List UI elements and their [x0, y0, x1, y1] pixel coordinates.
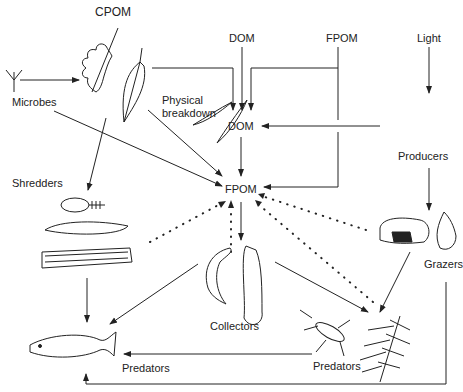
node-grazers: Grazers — [424, 258, 463, 270]
node-predators-right: Predators — [313, 360, 361, 372]
label-breakdown: breakdown — [162, 107, 216, 119]
node-fpom-top: FPOM — [326, 32, 358, 44]
grazer-organisms-icon — [380, 212, 456, 249]
collector-organisms-icon — [206, 246, 262, 325]
fish-predator-icon — [30, 332, 116, 357]
leaf-icon — [123, 48, 145, 122]
shredder-organisms-icon — [42, 198, 132, 268]
food-web-diagram: CPOM DOM FPOM Light Microbes Physical br… — [0, 0, 463, 392]
oak-leaf-icon — [82, 28, 118, 92]
node-fpom: FPOM — [225, 183, 257, 195]
node-shredders: Shredders — [12, 177, 63, 189]
node-dom-top: DOM — [229, 32, 255, 44]
node-light: Light — [417, 32, 441, 44]
node-cpom: CPOM — [95, 6, 131, 18]
node-producers: Producers — [398, 150, 448, 162]
microbe-icon — [6, 70, 22, 92]
node-collectors: Collectors — [210, 320, 259, 332]
diagram-canvas — [0, 0, 463, 392]
node-dom: DOM — [228, 120, 254, 132]
node-microbes: Microbes — [12, 96, 57, 108]
node-predators-left: Predators — [122, 362, 170, 374]
label-physical: Physical — [162, 94, 203, 106]
